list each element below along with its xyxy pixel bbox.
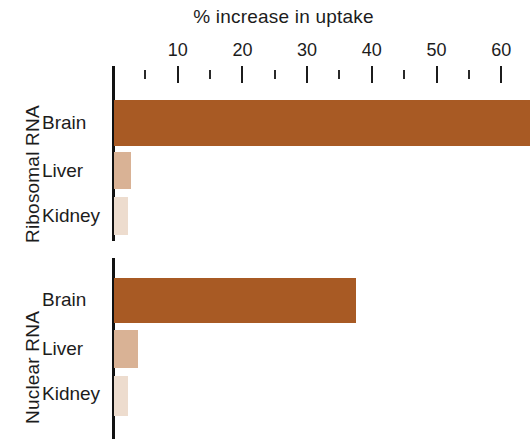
x-tick-minor-5 xyxy=(144,70,146,79)
group-label-nuclear-rna: Nuclear RNA xyxy=(22,311,44,424)
row-label-ribosomal-rna-brain: Brain xyxy=(42,112,86,134)
bar-nuclear-rna-liver xyxy=(114,330,138,368)
x-tick-20 xyxy=(241,66,243,83)
row-label-nuclear-rna-brain: Brain xyxy=(42,289,86,311)
x-tick-30 xyxy=(306,66,308,83)
x-tick-label-30: 30 xyxy=(297,40,317,61)
x-tick-40 xyxy=(371,66,373,83)
x-tick-60 xyxy=(500,66,502,83)
x-tick-10 xyxy=(177,66,179,83)
x-tick-label-40: 40 xyxy=(362,40,382,61)
bar-nuclear-rna-brain xyxy=(114,278,356,323)
x-tick-minor-15 xyxy=(209,70,211,79)
x-tick-label-10: 10 xyxy=(168,40,188,61)
x-tick-label-50: 50 xyxy=(426,40,446,61)
x-tick-label-20: 20 xyxy=(232,40,252,61)
row-label-nuclear-rna-kidney: Kidney xyxy=(42,383,100,405)
bar-ribosomal-rna-brain xyxy=(114,100,530,146)
x-tick-minor-25 xyxy=(274,70,276,79)
bar-ribosomal-rna-kidney xyxy=(114,197,128,235)
bar-chart: % increase in uptake 102030405060 BrainL… xyxy=(0,0,531,439)
group-label-ribosomal-rna: Ribosomal RNA xyxy=(22,105,44,243)
row-label-nuclear-rna-liver: Liver xyxy=(42,338,83,360)
row-label-ribosomal-rna-kidney: Kidney xyxy=(42,205,100,227)
x-tick-50 xyxy=(436,66,438,83)
x-tick-label-60: 60 xyxy=(491,40,511,61)
row-label-ribosomal-rna-liver: Liver xyxy=(42,160,83,182)
x-tick-minor-55 xyxy=(468,70,470,79)
bar-ribosomal-rna-liver xyxy=(114,152,131,189)
x-tick-minor-35 xyxy=(338,70,340,79)
bar-nuclear-rna-kidney xyxy=(114,376,128,416)
x-tick-minor-45 xyxy=(403,70,405,79)
